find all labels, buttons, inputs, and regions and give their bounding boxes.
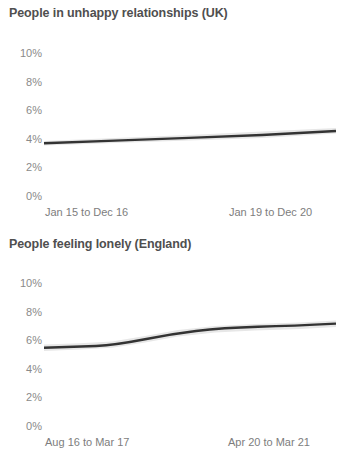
x-tick-left: Jan 15 to Dec 16 (45, 206, 128, 218)
y-tick-4: 4% (26, 363, 42, 375)
line-chart-unhappy-relationships: 10% 8% 6% 4% 2% 0% Jan 15 to Dec 16 Jan … (0, 0, 345, 231)
y-tick-8: 8% (26, 306, 42, 318)
y-tick-0: 0% (26, 190, 42, 202)
chart-panel-unhappy-relationships: People in unhappy relationships (UK) 10%… (0, 0, 345, 231)
x-tick-right: Apr 20 to Mar 21 (228, 436, 310, 448)
x-axis-tick-labels: Jan 15 to Dec 16 Jan 19 to Dec 20 (45, 206, 312, 218)
series-line (44, 131, 336, 143)
y-tick-8: 8% (26, 76, 42, 88)
y-tick-2: 2% (26, 161, 42, 173)
line-chart-feeling-lonely: 10% 8% 6% 4% 2% 0% Aug 16 to Mar 17 Apr … (0, 231, 345, 462)
y-tick-2: 2% (26, 391, 42, 403)
y-tick-4: 4% (26, 133, 42, 145)
y-axis-tick-labels: 10% 8% 6% 4% 2% 0% (20, 277, 42, 432)
y-tick-0: 0% (26, 420, 42, 432)
y-tick-6: 6% (26, 104, 42, 116)
y-axis-tick-labels: 10% 8% 6% 4% 2% 0% (20, 47, 42, 202)
y-tick-6: 6% (26, 334, 42, 346)
y-tick-10: 10% (20, 277, 42, 289)
x-tick-right: Jan 19 to Dec 20 (229, 206, 312, 218)
x-tick-left: Aug 16 to Mar 17 (45, 436, 129, 448)
y-tick-10: 10% (20, 47, 42, 59)
x-axis-tick-labels: Aug 16 to Mar 17 Apr 20 to Mar 21 (45, 436, 310, 448)
chart-panel-feeling-lonely: People feeling lonely (England) 10% 8% 6… (0, 231, 345, 462)
